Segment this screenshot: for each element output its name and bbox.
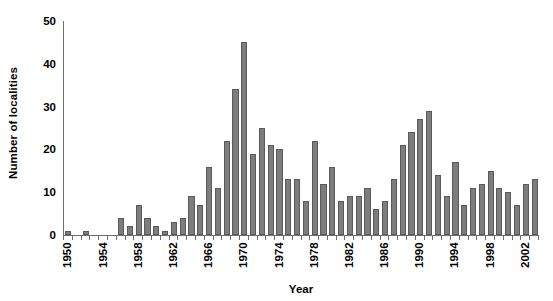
bar <box>224 141 230 235</box>
bar <box>461 205 467 235</box>
bar <box>391 179 397 235</box>
bar-series <box>64 21 539 235</box>
bar <box>162 231 168 235</box>
x-axis-tick-labels: 1950195419581962196619701974197819821986… <box>63 240 539 282</box>
bar <box>83 231 89 235</box>
bar <box>400 145 406 235</box>
bar <box>523 184 529 235</box>
y-axis-title-text: Number of localities <box>7 67 19 179</box>
bar <box>488 171 494 235</box>
x-axis-tick-label-text: 1970 <box>237 242 249 268</box>
bar <box>347 196 353 235</box>
bar <box>232 89 238 235</box>
y-axis-tick-label: 20 <box>43 143 56 155</box>
bar <box>435 175 441 235</box>
x-axis-tick-label-text: 1954 <box>97 242 109 268</box>
bar <box>294 179 300 235</box>
bar <box>268 145 274 235</box>
bar-chart-figure: Number of localities 01020304050 1950195… <box>0 0 553 301</box>
y-axis-tick-label: 30 <box>43 101 56 113</box>
x-axis-tick-label-text: 1998 <box>484 242 496 268</box>
bar <box>303 201 309 235</box>
y-axis-tick-label: 40 <box>43 58 56 70</box>
bar <box>373 209 379 235</box>
bar <box>532 179 538 235</box>
bar <box>153 226 159 235</box>
bar <box>118 218 124 235</box>
bar <box>320 184 326 235</box>
bar <box>276 149 282 235</box>
x-axis-tick-label-text: 1990 <box>413 242 425 268</box>
bar <box>259 128 265 235</box>
bar <box>206 167 212 235</box>
x-axis-tick-label-text: 1962 <box>167 242 179 268</box>
y-axis-title: Number of localities <box>0 0 26 245</box>
y-axis-tick-label: 0 <box>50 229 56 241</box>
bar <box>496 188 502 235</box>
bar <box>136 205 142 235</box>
x-axis-tick-label-text: 1950 <box>61 242 73 268</box>
x-axis-tick-label-text: 1994 <box>448 242 460 268</box>
bar <box>65 231 71 235</box>
bar <box>452 162 458 235</box>
bar <box>180 218 186 235</box>
bar <box>241 42 247 235</box>
bar <box>426 111 432 235</box>
bar <box>417 119 423 235</box>
bar <box>171 222 177 235</box>
plot-area <box>63 21 539 236</box>
bar <box>338 201 344 235</box>
bar <box>479 184 485 235</box>
bar <box>215 188 221 235</box>
x-axis-tick-label-text: 2002 <box>519 242 531 268</box>
bar <box>356 196 362 235</box>
x-axis-tick-label-text: 1958 <box>132 242 144 268</box>
bar <box>505 192 511 235</box>
x-axis-tick-label-text: 1986 <box>378 242 390 268</box>
y-axis-tick-label: 50 <box>43 15 56 27</box>
x-axis-tick-label-text: 1978 <box>308 242 320 268</box>
bar <box>364 188 370 235</box>
bar <box>329 167 335 235</box>
x-axis-tick-label-text: 1974 <box>273 242 285 268</box>
x-axis-tick-label-text: 1982 <box>343 242 355 268</box>
bar <box>197 205 203 235</box>
bar <box>312 141 318 235</box>
x-axis-tick-label-text: 1966 <box>202 242 214 268</box>
bar <box>444 196 450 235</box>
y-axis-tick-labels: 01020304050 <box>26 0 60 301</box>
x-axis-title: Year <box>63 283 539 295</box>
y-axis-tick-label: 10 <box>43 186 56 198</box>
bar <box>382 201 388 235</box>
bar <box>188 196 194 235</box>
bar <box>470 188 476 235</box>
bar <box>285 179 291 235</box>
bar <box>408 132 414 235</box>
bar <box>514 205 520 235</box>
bar <box>127 226 133 235</box>
bar <box>250 154 256 235</box>
bar <box>144 218 150 235</box>
